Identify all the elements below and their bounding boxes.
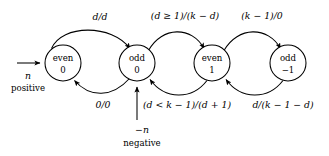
state-node-odd-1[interactable]: odd −1 [270, 45, 306, 81]
transition-label-even1-odd-1: (k − 1)/0 [241, 10, 283, 21]
state-node-odd0[interactable]: odd 0 [119, 45, 155, 81]
state-label-line1: odd [129, 53, 146, 63]
state-label-line2: 1 [209, 65, 214, 75]
transition-arc [75, 78, 131, 93]
state-circle [194, 45, 230, 81]
transition-arc [226, 80, 283, 96]
transition-even1-to-odd-1[interactable]: (k − 1)/0 [224, 10, 283, 51]
entry-label-n-positive-symbol: n [25, 70, 31, 81]
state-label-line1: even [202, 53, 223, 63]
state-label-line2: 0 [60, 65, 65, 75]
transition-arc [224, 32, 281, 51]
state-circle [270, 45, 306, 81]
state-label-line2: −1 [282, 65, 295, 75]
fsm-canvas: d/d (d ≥ 1)/(k − d) (k − 1)/0 0/0 (d < k… [0, 0, 329, 156]
transition-odd-1-to-even1[interactable]: d/(k − 1 − d) [226, 80, 314, 110]
transition-label-even1-odd0: (d < k − 1)/(d + 1) [143, 99, 231, 110]
state-label-line2: 0 [134, 65, 139, 75]
state-node-even0[interactable]: even 0 [45, 45, 81, 81]
transition-even0-to-odd0[interactable]: d/d [52, 11, 131, 49]
state-circle [45, 45, 81, 81]
transition-label-odd0-even1: (d ≥ 1)/(k − d) [151, 10, 220, 21]
state-label-line1: odd [280, 53, 297, 63]
state-node-even1[interactable]: even 1 [194, 45, 230, 81]
transition-even1-to-odd0[interactable]: (d < k − 1)/(d + 1) [143, 80, 231, 110]
entry-label-n-negative-symbol: −n [135, 124, 149, 135]
state-machine-diagram: d/d (d ≥ 1)/(k − d) (k − 1)/0 0/0 (d < k… [0, 0, 329, 156]
transition-arc [150, 80, 207, 96]
transition-arc [149, 32, 205, 51]
entry-arrow-positive: n positive [11, 63, 45, 93]
transition-label-odd-1-even1: d/(k − 1 − d) [252, 99, 314, 110]
transition-odd0-to-even1[interactable]: (d ≥ 1)/(k − d) [149, 10, 220, 51]
entry-label-n-negative-word: negative [123, 138, 160, 148]
state-label-line1: even [53, 53, 74, 63]
transition-odd0-to-even0[interactable]: 0/0 [75, 78, 131, 110]
transition-label-even0-odd0: d/d [92, 11, 107, 22]
entry-arrow-negative: −n negative [123, 87, 160, 148]
state-circle [119, 45, 155, 81]
transition-label-odd0-even0: 0/0 [96, 99, 111, 110]
entry-label-n-positive-word: positive [11, 83, 45, 93]
